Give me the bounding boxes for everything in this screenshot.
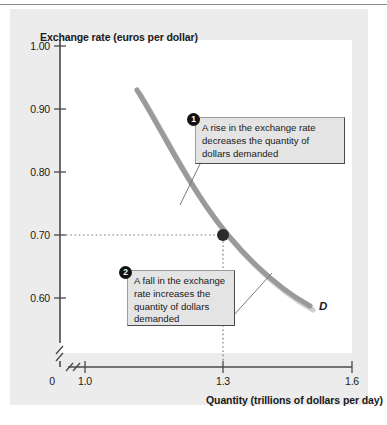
y-axis-break-mark-2 — [56, 353, 63, 361]
callout-badge-1: 1 — [187, 113, 200, 126]
y-tick-label-0-90: 0.90 — [16, 103, 50, 115]
callout-badge-2: 2 — [119, 266, 132, 279]
y-axis-title: Exchange rate (euros per dollar) — [40, 31, 198, 43]
callout-box-1: A rise in the exchange rate decreases th… — [195, 117, 345, 164]
y-tick-label-0-80: 0.80 — [16, 166, 50, 178]
figure-card: Exchange rate (euros per dollar) Quantit… — [10, 9, 368, 405]
y-tick-label-0-70: 0.70 — [16, 229, 50, 241]
top-divider — [0, 4, 387, 5]
point-marker — [217, 229, 229, 241]
callout-box-2: A fall in the exchange rate increases th… — [127, 270, 235, 326]
y-tick-label-0-60: 0.60 — [16, 292, 50, 304]
x-axis-title: Quantity (trillions of dollars per day) — [206, 394, 383, 406]
demand-curve-label: D — [319, 300, 327, 314]
x-tick-label-1-3: 1.3 — [206, 375, 240, 387]
chart-plot-area — [10, 9, 368, 405]
x-axis-origin-label: 0 — [35, 375, 69, 387]
x-tick-label-1-6: 1.6 — [335, 375, 369, 387]
x-tick-label-1-0: 1.0 — [68, 375, 102, 387]
y-tick-label-1-00: 1.00 — [16, 40, 50, 52]
